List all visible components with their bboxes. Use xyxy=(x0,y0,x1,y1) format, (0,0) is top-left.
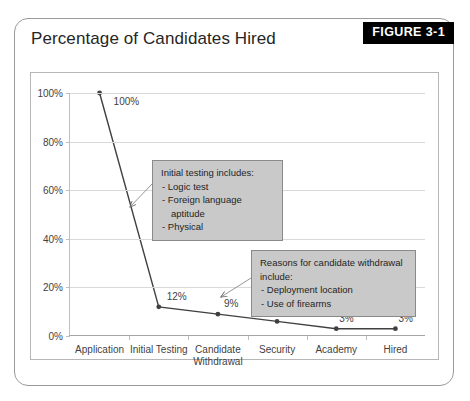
x-axis-tick-mark xyxy=(366,336,367,340)
page-title: Percentage of Candidates Hired xyxy=(31,29,276,49)
y-axis-tick-mark xyxy=(66,287,70,288)
annotation-initial-testing-item-2: - Physical xyxy=(161,220,274,234)
annotation-initial-testing-head: Initial testing includes: xyxy=(161,166,274,180)
annotation-withdrawal-item-0: - Deployment location xyxy=(260,283,407,297)
annotation-withdrawal: Reasons for candidate withdrawal include… xyxy=(251,250,416,317)
y-axis-tick-label: 80% xyxy=(43,136,63,147)
data-point-marker xyxy=(216,312,221,317)
annotation-withdrawal-item-1: - Use of firearms xyxy=(260,297,407,311)
data-point-label: 12% xyxy=(167,290,187,301)
annotation-initial-testing-item-1: - Foreign language aptitude xyxy=(161,193,274,220)
annotation-initial-testing-item-0: - Logic test xyxy=(161,180,274,194)
gridline xyxy=(70,142,425,143)
x-axis-tick-mark xyxy=(307,336,308,340)
y-axis-tick-label: 100% xyxy=(37,88,63,99)
x-axis-tick-label: Initial Testing xyxy=(130,344,188,356)
x-axis-tick-label: Candidate Withdrawal xyxy=(193,344,242,368)
gridline xyxy=(70,93,425,94)
annotation-initial-testing: Initial testing includes: - Logic test -… xyxy=(152,160,283,241)
data-point-marker xyxy=(334,326,339,331)
x-axis-tick-mark xyxy=(188,336,189,340)
y-axis-tick-mark xyxy=(66,239,70,240)
x-axis-tick-label: Academy xyxy=(315,344,357,356)
y-axis-tick-mark xyxy=(66,93,70,94)
data-point-marker xyxy=(275,319,280,324)
y-axis-tick-label: 40% xyxy=(43,233,63,244)
x-axis-tick-mark xyxy=(129,336,130,340)
x-axis-tick-mark xyxy=(248,336,249,340)
y-axis-tick-mark xyxy=(66,336,70,337)
data-point-label: 100% xyxy=(114,96,140,107)
x-axis-tick-label: Security xyxy=(259,344,295,356)
y-axis-tick-label: 0% xyxy=(49,331,63,342)
y-axis-tick-label: 20% xyxy=(43,282,63,293)
data-point-marker xyxy=(393,326,398,331)
y-axis-tick-mark xyxy=(66,190,70,191)
x-axis-tick-label: Application xyxy=(75,344,124,356)
x-axis-tick-label: Hired xyxy=(383,344,407,356)
annotation-withdrawal-head: Reasons for candidate withdrawal include… xyxy=(260,256,407,283)
data-point-label: 9% xyxy=(224,298,238,309)
data-point-marker xyxy=(156,304,161,309)
y-axis-tick-mark xyxy=(66,142,70,143)
y-axis-tick-label: 60% xyxy=(43,185,63,196)
figure-number-badge: FIGURE 3-1 xyxy=(363,22,454,44)
